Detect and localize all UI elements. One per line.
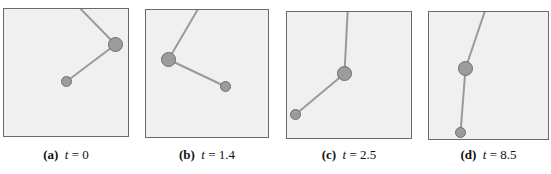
- caption-label: (c): [322, 147, 336, 162]
- panel-b: [145, 9, 269, 138]
- double-pendulum-figure: (a) t = 0 (b) t = 1.4 (c) t = 2.5 (d) t …: [0, 0, 551, 174]
- panel-c: [286, 11, 412, 139]
- caption-b: (b) t = 1.4: [137, 147, 277, 163]
- caption-value: 2.5: [360, 147, 376, 162]
- upper-rod: [466, 12, 491, 69]
- lower-rod: [296, 74, 345, 115]
- caption-var: t: [201, 147, 205, 162]
- caption-eq: =: [208, 147, 215, 162]
- caption-value: 1.4: [219, 147, 235, 162]
- caption-value: 8.5: [500, 147, 516, 162]
- lower-bob: [456, 128, 466, 138]
- lower-bob: [221, 82, 231, 92]
- caption-var: t: [343, 147, 347, 162]
- caption-label: (b): [179, 147, 195, 162]
- caption-eq: =: [349, 147, 356, 162]
- upper-rod: [169, 10, 207, 60]
- upper-bob: [162, 53, 176, 67]
- caption-var: t: [65, 147, 69, 162]
- lower-bob: [62, 77, 72, 87]
- lower-rod: [461, 69, 466, 133]
- caption-label: (a): [43, 147, 58, 162]
- caption-value: 0: [82, 147, 89, 162]
- upper-bob: [459, 62, 473, 76]
- pendulum-drawing: [4, 9, 129, 137]
- lower-rod: [67, 45, 116, 82]
- upper-bob: [109, 38, 123, 52]
- caption-c: (c) t = 2.5: [279, 147, 419, 163]
- lower-bob: [291, 110, 301, 120]
- pendulum-drawing: [287, 12, 412, 139]
- panel-d: [428, 11, 549, 140]
- pendulum-drawing: [429, 12, 549, 140]
- pendulum-drawing: [146, 10, 269, 138]
- upper-rod: [345, 12, 349, 74]
- caption-var: t: [483, 147, 487, 162]
- panel-a: [3, 8, 129, 137]
- caption-d: (d) t = 8.5: [419, 147, 551, 163]
- caption-eq: =: [72, 147, 79, 162]
- upper-rod: [67, 9, 116, 45]
- caption-label: (d): [460, 147, 476, 162]
- upper-bob: [338, 67, 352, 81]
- lower-rod: [169, 60, 226, 87]
- caption-eq: =: [490, 147, 497, 162]
- caption-a: (a) t = 0: [0, 147, 136, 163]
